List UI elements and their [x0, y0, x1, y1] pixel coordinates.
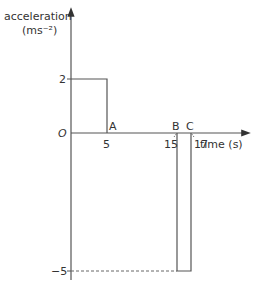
point-c: C — [186, 120, 194, 133]
point-b: B — [172, 120, 180, 133]
point-a: A — [109, 120, 117, 133]
y-tick-neg5: −5 — [51, 265, 67, 278]
x-tick-5: 5 — [103, 138, 110, 151]
y-tick-2: 2 — [59, 73, 66, 86]
segment-0-5 — [71, 79, 107, 133]
segment-15-17 — [177, 133, 191, 271]
acceleration-time-graph: acceleration (ms⁻²) time (s) O 2 −5 5 15… — [0, 0, 262, 284]
y-axis-label: acceleration — [4, 10, 72, 23]
origin-label: O — [58, 127, 67, 140]
x-tick-17: 17 — [194, 138, 208, 151]
y-axis-unit: (ms⁻²) — [22, 24, 57, 37]
x-tick-15: 15 — [164, 138, 178, 151]
